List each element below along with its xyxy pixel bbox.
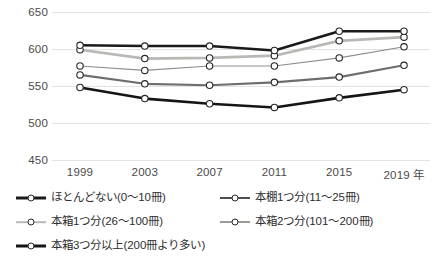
gridline-450 [52,160,430,161]
x-tick-label-2015: 2015 [326,166,352,178]
legend-point-icon [28,195,35,202]
plot-area [52,12,430,160]
data-point [206,55,212,61]
data-point [401,44,407,50]
legend-label: 本箱2つ分(101〜200冊) [255,216,373,228]
data-point [401,62,407,68]
data-point [77,42,83,48]
data-point [77,63,83,69]
legend-point-icon [232,195,239,202]
legend-point-icon [28,243,35,250]
x-tick-label-2011: 2011 [262,166,288,178]
legend-marker-icon [16,216,46,228]
x-tick-label-2007: 2007 [196,166,222,178]
legend-marker-icon [220,216,250,228]
x-tick-label-2019: 2019 年 [384,166,425,182]
data-point [271,79,277,85]
data-point [206,82,212,88]
legend-point-icon [28,219,35,226]
data-point [206,101,212,107]
legend-item-0[interactable]: ほとんどない(0〜10冊) [16,192,166,204]
data-point [77,84,83,90]
data-point [401,87,407,93]
series-line-4 [80,87,404,107]
data-point [336,74,342,80]
data-point [271,63,277,69]
data-point [336,55,342,61]
data-point [142,43,148,49]
legend-label: ほとんどない(0〜10冊) [51,192,166,204]
y-tick-label-500: 500 [4,117,48,129]
data-point [142,81,148,87]
y-tick-label-600: 600 [4,43,48,55]
legend-label: 本箱1つ分(26〜100冊) [51,216,163,228]
legend-point-icon [232,219,239,226]
series-lines [52,12,430,160]
series-line-3 [80,65,404,85]
legend-marker-icon [16,240,46,252]
x-axis: 199920032007201120152019 年 [52,164,430,184]
x-tick-label-2003: 2003 [132,166,158,178]
chart-legend: ほとんどない(0〜10冊)本棚1つ分(11〜25冊)本箱1つ分(26〜100冊)… [16,192,424,266]
data-point [206,43,212,49]
legend-label: 本箱3つ分以上(200冊より多い) [51,240,205,252]
data-point [206,63,212,69]
series-line-2 [80,47,404,71]
data-point [271,47,277,53]
data-point [336,28,342,34]
data-point [336,38,342,44]
y-tick-label-450: 450 [4,154,48,166]
y-axis: 650600550500450 [0,12,48,160]
data-point [142,67,148,73]
data-point [142,55,148,61]
legend-item-3[interactable]: 本箱2つ分(101〜200冊) [220,216,373,228]
data-point [77,72,83,78]
legend-marker-icon [16,192,46,204]
data-point [142,95,148,101]
data-point [336,95,342,101]
data-point [401,28,407,34]
y-tick-label-550: 550 [4,80,48,92]
legend-marker-icon [220,192,250,204]
line-chart-figure: 650600550500450 199920032007201120152019… [0,0,434,271]
legend-label: 本棚1つ分(11〜25冊) [255,192,360,204]
x-tick-label-1999: 1999 [67,166,93,178]
y-tick-label-650: 650 [4,6,48,18]
legend-item-1[interactable]: 本棚1つ分(11〜25冊) [220,192,360,204]
legend-item-2[interactable]: 本箱1つ分(26〜100冊) [16,216,163,228]
data-point [271,104,277,110]
legend-item-4[interactable]: 本箱3つ分以上(200冊より多い) [16,240,205,252]
